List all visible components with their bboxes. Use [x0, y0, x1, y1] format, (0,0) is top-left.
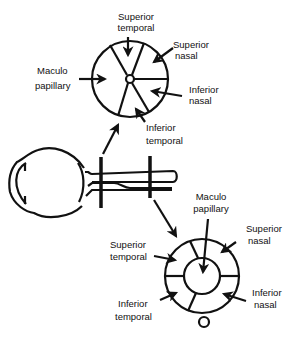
bottom-cross-section: Maculo papillary Superior nasal Superior…	[110, 191, 282, 327]
svg-text:nasal: nasal	[248, 235, 271, 246]
eyeball-and-optic-nerve	[9, 148, 176, 217]
svg-text:Superior: Superior	[246, 223, 282, 234]
label-superior-temporal-2: temporal	[110, 251, 147, 262]
label-superior-temporal-2: temporal	[118, 22, 155, 33]
label-superior-nasal-1: Superior	[173, 39, 209, 50]
svg-text:Inferior: Inferior	[252, 287, 282, 298]
label-inferior-temporal-1: Inferior	[118, 298, 148, 309]
label-superior-nasal-1: Superior	[246, 223, 282, 234]
label-maculo-papillary-1: Maculo	[196, 191, 227, 202]
label-inferior-temporal-2: temporal	[115, 311, 152, 322]
svg-text:Maculo: Maculo	[196, 191, 227, 202]
arrow-icon	[224, 294, 246, 301]
optic-nerve-fiber-diagram: Superior temporal Superior nasal Maculo …	[0, 0, 296, 337]
svg-text:Superior: Superior	[110, 239, 146, 250]
top-center-vessel	[126, 75, 134, 83]
arrow-icon	[154, 256, 175, 260]
retina-arc	[78, 163, 83, 202]
svg-text:papillary: papillary	[193, 203, 229, 214]
optic-nerve-sheath	[86, 190, 172, 196]
label-superior-temporal-1: Superior	[110, 239, 146, 250]
label-inferior-nasal-2: nasal	[189, 95, 212, 106]
svg-text:nasal: nasal	[189, 95, 212, 106]
label-inferior-temporal-2: temporal	[146, 135, 183, 146]
label-maculo-papillary-2: papillary	[193, 203, 229, 214]
svg-text:Maculo: Maculo	[37, 65, 68, 76]
svg-text:Inferior: Inferior	[146, 122, 176, 133]
svg-text:papillary: papillary	[35, 80, 71, 91]
label-superior-temporal-1: Superior	[118, 11, 154, 22]
svg-text:temporal: temporal	[110, 251, 147, 262]
svg-text:temporal: temporal	[115, 311, 152, 322]
svg-text:nasal: nasal	[254, 299, 277, 310]
label-superior-nasal-2: nasal	[175, 50, 198, 61]
svg-text:temporal: temporal	[118, 22, 155, 33]
arrow-icon	[154, 200, 176, 236]
label-maculo-papillary-2: papillary	[35, 80, 71, 91]
label-inferior-nasal-1: Inferior	[252, 287, 282, 298]
arrow-icon	[103, 125, 118, 154]
bottom-inner-circle	[184, 258, 220, 294]
arrow-icon	[203, 219, 208, 272]
svg-text:temporal: temporal	[146, 135, 183, 146]
optic-nerve-upper	[85, 171, 177, 182]
svg-text:Superior: Superior	[118, 11, 154, 22]
svg-text:Superior: Superior	[173, 39, 209, 50]
top-cross-section: Superior temporal Superior nasal Maculo …	[35, 11, 219, 146]
svg-text:Inferior: Inferior	[189, 84, 219, 95]
label-maculo-papillary-1: Maculo	[37, 65, 68, 76]
label-inferior-nasal-1: Inferior	[189, 84, 219, 95]
globe-outline	[9, 148, 84, 217]
svg-text:Inferior: Inferior	[118, 298, 148, 309]
label-inferior-nasal-2: nasal	[254, 299, 277, 310]
svg-text:nasal: nasal	[175, 50, 198, 61]
bottom-small-circle	[199, 317, 209, 327]
arrow-icon	[152, 91, 182, 96]
label-superior-nasal-2: nasal	[248, 235, 271, 246]
label-inferior-temporal-1: Inferior	[146, 122, 176, 133]
